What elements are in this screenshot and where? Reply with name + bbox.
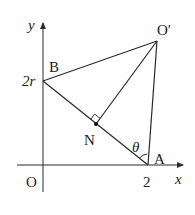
- y-tick-label: 2r: [22, 73, 36, 89]
- point-B-label: B: [49, 59, 59, 75]
- geometry-diagram: y x O 2 2r B O′ N A θ: [0, 0, 195, 215]
- right-angle-marker: [91, 114, 101, 120]
- y-axis-label: y: [26, 17, 35, 33]
- x-tick-label: 2: [143, 174, 151, 190]
- segment-NO-prime: [96, 41, 157, 124]
- x-axis-label: x: [174, 171, 182, 187]
- angle-theta-arc: [139, 154, 147, 158]
- point-O-prime-label: O′: [157, 22, 171, 38]
- angle-theta-label: θ: [132, 139, 140, 155]
- segment-BO-prime: [43, 41, 157, 81]
- segment-AO-prime: [148, 41, 157, 165]
- point-N-dot: [94, 122, 98, 126]
- point-A-label: A: [154, 151, 165, 167]
- origin-label: O: [26, 174, 37, 190]
- point-N-label: N: [84, 132, 95, 148]
